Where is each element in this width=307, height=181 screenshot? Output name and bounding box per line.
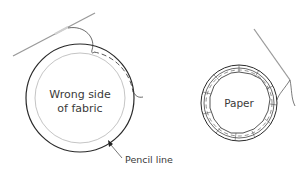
fabric-circle-group: Wrong side of fabric Pencil line [13, 13, 173, 165]
fabric-label-line2: of fabric [57, 102, 102, 115]
needle-icon-right [254, 29, 290, 80]
thread-right [277, 80, 295, 106]
callout-leader [111, 145, 122, 158]
thread [68, 28, 94, 53]
paper-label: Paper [224, 97, 254, 109]
pencil-line-label: Pencil line [125, 154, 173, 165]
sewing-diagram: Wrong side of fabric Pencil line Paper [0, 0, 307, 181]
paper-circle-group: Paper [201, 29, 295, 141]
fabric-label-line1: Wrong side [49, 88, 111, 101]
needle-icon [13, 13, 95, 56]
